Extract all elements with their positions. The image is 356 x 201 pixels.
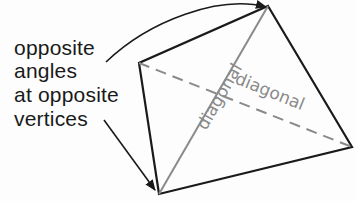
arrow-to-bottom-vertex-icon: [104, 120, 155, 190]
diagram-svg: diagonal diagonal: [0, 0, 356, 201]
arrow-to-top-vertex-icon: [106, 4, 266, 62]
quadrilateral-edges: [139, 6, 352, 194]
quadrilateral-diagram: opposite angles at opposite vertices dia…: [0, 0, 356, 201]
diagonal-label-dashed: diagonal: [233, 68, 308, 114]
